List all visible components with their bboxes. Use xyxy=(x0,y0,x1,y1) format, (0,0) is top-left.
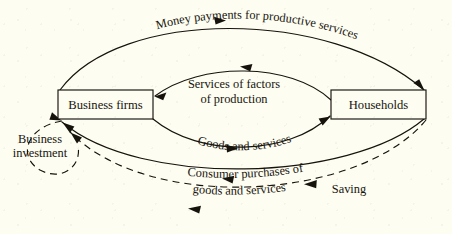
arrow-head-money-end xyxy=(413,79,424,90)
money-payments-label: Money payments for productive services xyxy=(154,8,360,43)
node-business-firms[interactable]: Business firms xyxy=(58,90,153,119)
arrow-head-consumer-end xyxy=(63,123,75,134)
flow-diagram-canvas: Business firms Households Money payments… xyxy=(0,0,452,234)
business-investment-label-line1: Business xyxy=(18,132,62,146)
business-investment-label-line2: investment xyxy=(13,146,68,160)
consumer-purchases-label-line2: goods and services xyxy=(192,180,286,198)
households-label: Households xyxy=(349,98,409,112)
consumer-purchases-label-line1: Consumer purchases of xyxy=(187,161,305,181)
saving-label: Saving xyxy=(332,182,366,196)
arrow-head-saving-label xyxy=(304,180,317,188)
node-households[interactable]: Households xyxy=(331,90,426,119)
services-of-factors-label-line1: Services of factors xyxy=(188,77,280,91)
arrow-head-saving-mid xyxy=(188,206,201,214)
services-of-factors-label-line2: of production xyxy=(200,92,267,106)
goods-and-services-label: Goods and services xyxy=(196,131,293,153)
arrow-head-services-end xyxy=(155,93,167,101)
business-firms-label: Business firms xyxy=(68,98,143,112)
circular-flow-diagram: Business firms Households Money payments… xyxy=(0,0,452,234)
